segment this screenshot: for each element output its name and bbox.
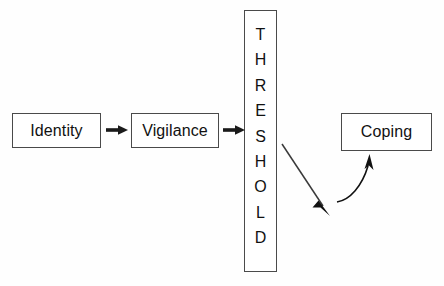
arrow-curve-to-coping [337,154,374,202]
threshold-letter: L [256,200,265,225]
node-coping[interactable]: Coping [341,113,432,151]
arrow-vigilance-to-threshold [223,125,245,135]
threshold-letter: D [255,225,267,250]
node-threshold-label: T H R E S H O L D [254,22,266,251]
node-coping-label: Coping [361,124,412,140]
node-vigilance[interactable]: Vigilance [131,113,219,148]
threshold-letter: H [255,47,267,72]
node-vigilance-label: Vigilance [142,123,208,139]
threshold-letter: S [255,124,266,149]
node-identity-label: Identity [30,123,82,139]
arrow-identity-to-vigilance [106,125,128,135]
threshold-letter: R [255,73,267,98]
threshold-letter: O [254,174,266,199]
arrow-threshold-down [282,144,330,216]
node-threshold[interactable]: T H R E S H O L D [244,10,277,272]
threshold-letter: H [255,149,267,174]
threshold-letter: E [255,98,266,123]
node-identity[interactable]: Identity [12,113,101,148]
threshold-letter: T [256,22,266,47]
diagram-canvas: Identity Vigilance T H R E S H O L D Cop… [0,0,444,286]
